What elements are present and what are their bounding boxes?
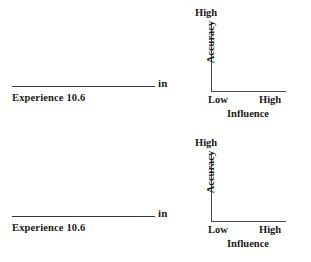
answer-unit-label-1: in [158,77,167,89]
answer-blank-line-2[interactable] [12,216,155,217]
answer-caption-2: Experience 10.6 [12,221,85,234]
x-axis-tick-low-2: Low [208,224,228,236]
accuracy-influence-plot-1: High Low High Accuracy Influence [190,5,310,123]
plot-area-2[interactable]: High Low High Accuracy Influence [211,152,286,222]
x-axis-line-2 [211,221,286,222]
x-axis-tick-high-2: High [259,224,281,236]
answer-unit-label-2: in [158,207,167,219]
answer-blank-line-1[interactable] [12,86,155,87]
worksheet-page: { "page": { "background_color": "#ffffff… [0,0,311,262]
y-axis-label-1: Accuracy [205,14,217,70]
x-axis-tick-low-1: Low [208,94,228,106]
x-axis-line-1 [211,91,286,92]
accuracy-influence-plot-2: High Low High Accuracy Influence [190,135,310,253]
plot-area-1[interactable]: High Low High Accuracy Influence [211,22,286,92]
answer-caption-1: Experience 10.6 [12,91,85,104]
x-axis-label-1: Influence [205,108,291,120]
x-axis-tick-high-1: High [259,94,281,106]
x-axis-label-2: Influence [205,238,291,250]
y-axis-label-2: Accuracy [205,144,217,200]
